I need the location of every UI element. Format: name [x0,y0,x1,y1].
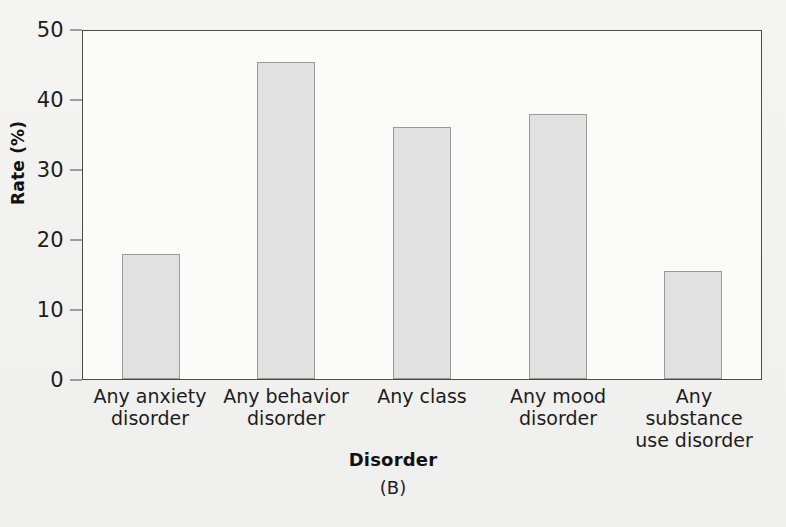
bar-slot [83,31,219,379]
y-tick-mark [70,380,82,381]
x-tick-label-line: disorder [490,408,626,430]
bar-slot [625,31,761,379]
x-tick-label-line: Any mood [490,386,626,408]
x-tick-label-line: Any class [354,386,490,408]
y-tick-label: 30 [16,158,64,182]
x-axis-title: Disorder [0,449,786,470]
x-tick-label-line: Any behavior [218,386,354,408]
x-tick-label: Any class [354,386,490,452]
y-tick-label: 40 [16,88,64,112]
y-tick-mark [70,240,82,241]
x-tick-label: Any anxietydisorder [82,386,218,452]
bar [529,114,587,379]
x-tick-label: Any substanceuse disorder [626,386,762,452]
y-tick-label: 0 [16,368,64,392]
x-tick-label-line: disorder [218,408,354,430]
bar [122,254,180,379]
bar [664,271,722,380]
bar [257,62,315,379]
panel-label: (B) [0,477,786,498]
y-tick-mark [70,310,82,311]
y-tick-mark [70,30,82,31]
x-axis-tick-labels: Any anxietydisorderAny behaviordisorderA… [82,386,762,452]
x-tick-label-line: Any substance [626,386,762,430]
y-tick-label: 20 [16,228,64,252]
y-tick-mark [70,170,82,171]
bar-slot [219,31,355,379]
x-tick-label-line: disorder [82,408,218,430]
x-tick-label-line: Any anxiety [82,386,218,408]
bar-slot [490,31,626,379]
plot-area [82,30,762,380]
y-tick-mark [70,100,82,101]
x-tick-label: Any behaviordisorder [218,386,354,452]
bars-layer [83,31,761,379]
y-tick-label: 10 [16,298,64,322]
x-tick-label: Any mooddisorder [490,386,626,452]
figure-canvas: Rate (%) Any anxietydisorderAny behavior… [0,0,786,527]
bar [393,127,451,379]
y-tick-label: 50 [16,18,64,42]
bar-slot [354,31,490,379]
